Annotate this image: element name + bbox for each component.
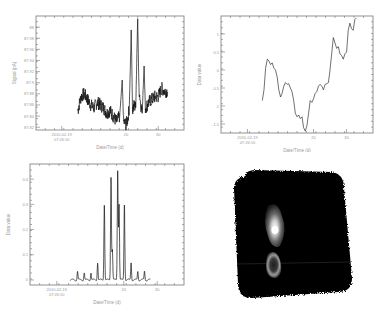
signal-trace	[78, 19, 168, 130]
x-axis-label: Date/Time (d)	[96, 145, 124, 150]
x-tick-label: 07:26:10	[54, 137, 70, 142]
y-tick-label: 87.86	[24, 102, 35, 107]
x-tick-label: 30	[155, 287, 160, 292]
y-tick-label: 87.92	[24, 69, 35, 74]
chart-bottom-left: 00.10.20.30.42010-02-1907:26:102030Date/…	[0, 152, 190, 313]
y-tick-label: 0.3	[22, 202, 28, 207]
y-tick-label: 88	[30, 25, 35, 30]
data-trace	[262, 18, 356, 131]
x-tick-label: 07:26:10	[49, 292, 65, 297]
y-tick-label: 87.9	[26, 80, 35, 85]
x-axis-label: Date/Time (d)	[283, 148, 311, 152]
plot-frame	[36, 16, 184, 130]
x-tick-label: 07:26:10	[240, 140, 256, 145]
grayscale-image	[228, 160, 358, 300]
y-tick-label: 87.94	[24, 58, 35, 63]
y-tick-label: 1	[217, 32, 220, 37]
x-tick-label: 30	[344, 135, 349, 140]
y-axis-label: Data value	[6, 213, 11, 235]
plot-signal: 87.8287.8487.8687.8887.987.9287.9487.968…	[0, 0, 190, 152]
y-tick-label: 87.88	[24, 91, 35, 96]
y-tick-label: 0.4	[22, 177, 28, 182]
plot-data-value-walk: -1.5-1-0.500.512010-02-1907:26:102030Dat…	[190, 0, 385, 152]
y-tick-label: 0.2	[22, 227, 28, 232]
x-tick-label: 20	[311, 135, 316, 140]
y-tick-label: 0.5	[213, 50, 219, 55]
x-tick-label: 20	[122, 287, 127, 292]
x-axis-label: Date/Time (d)	[93, 300, 121, 305]
y-tick-label: -1.5	[212, 122, 220, 127]
chart-top-right: -1.5-1-0.500.512010-02-1907:26:102030Dat…	[190, 0, 385, 152]
y-axis-label: Data value	[197, 63, 202, 85]
y-tick-label: -0.5	[212, 86, 220, 91]
peaks-trace	[70, 171, 150, 281]
y-tick-label: 87.98	[24, 36, 35, 41]
y-tick-label: 87.96	[24, 47, 35, 52]
plot-frame	[221, 16, 373, 133]
plot-frame	[30, 164, 184, 285]
y-axis-label: Signal (pA)	[12, 61, 17, 84]
y-tick-label: 0	[217, 68, 220, 73]
y-tick-label: -1	[215, 104, 219, 109]
y-tick-label: 0.1	[22, 252, 28, 257]
plot-data-value-peaks: 00.10.20.30.42010-02-1907:26:102030Date/…	[0, 152, 190, 313]
chart-top-left: 87.8287.8487.8687.8887.987.9287.9487.968…	[0, 0, 190, 152]
x-tick-label: 20	[124, 132, 129, 137]
y-tick-label: 87.84	[24, 114, 35, 119]
y-tick-label: 0	[26, 277, 29, 282]
x-tick-label: 30	[156, 132, 161, 137]
image-panel	[228, 160, 358, 300]
y-tick-label: 87.82	[24, 125, 35, 130]
